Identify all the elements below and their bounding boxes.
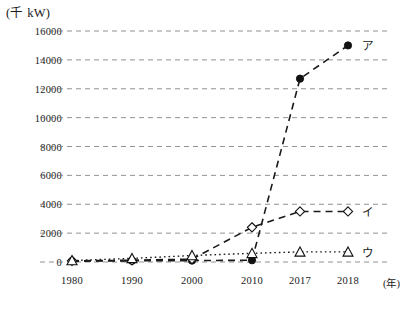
data-point-marker bbox=[344, 42, 351, 49]
data-point-marker bbox=[247, 248, 257, 257]
data-point-marker bbox=[187, 251, 197, 260]
series-label-2: ウ bbox=[362, 244, 373, 260]
series-line bbox=[72, 45, 348, 261]
series-line bbox=[72, 211, 348, 260]
data-point-marker bbox=[343, 207, 352, 216]
data-point-marker bbox=[247, 223, 256, 232]
series-label-0: ア bbox=[362, 37, 373, 53]
x-axis-tick-label: 2000 bbox=[181, 275, 203, 286]
data-point-marker bbox=[296, 75, 303, 82]
plot-area bbox=[0, 0, 413, 309]
x-axis-tick-label: 2017 bbox=[289, 275, 311, 286]
chart-container: (千 kW) 020004000600080001000012000140001… bbox=[0, 0, 413, 309]
series-label-1: イ bbox=[362, 203, 373, 219]
x-axis-tick-label: 2010 bbox=[241, 275, 263, 286]
data-point-marker bbox=[295, 207, 304, 216]
x-axis-tick-label: 1980 bbox=[61, 275, 83, 286]
x-axis-unit-label: (年) bbox=[383, 275, 400, 290]
x-axis-tick-label: 1990 bbox=[121, 275, 143, 286]
data-point-marker bbox=[295, 247, 305, 256]
series-line bbox=[72, 252, 348, 261]
x-axis-tick-label: 2018 bbox=[337, 275, 359, 286]
